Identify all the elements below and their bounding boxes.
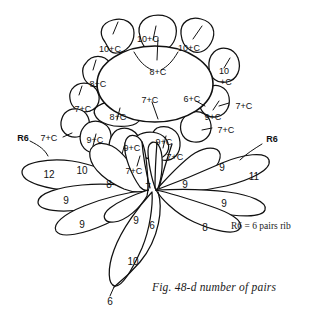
figure-caption: Fig. 48-d number of pairs bbox=[152, 281, 276, 293]
petal-right-lower-label: 7+C bbox=[218, 125, 235, 135]
stem-upper-label: 7 bbox=[145, 182, 151, 193]
leaf-right-5-label: 8 bbox=[202, 222, 208, 233]
leaf-right-1-label: 9 bbox=[219, 162, 225, 173]
leaf-right-3-label: 9 bbox=[221, 198, 227, 209]
petal-bottom-center-left-label: 9+C bbox=[124, 143, 141, 153]
petal-left-lower-label: 8+C bbox=[110, 112, 127, 122]
leaf-left-6-label: 9 bbox=[133, 215, 139, 226]
r6-left-label: R6 bbox=[17, 133, 29, 143]
stem-leaf-label: 10 bbox=[127, 256, 139, 267]
center-left-low-label: 7+C bbox=[142, 95, 159, 105]
leaf-right-2-label: 11 bbox=[249, 171, 260, 182]
petal-bottom-left-label: 9+C bbox=[87, 135, 104, 145]
leaf-left-1-label: 12 bbox=[43, 169, 55, 180]
figure-root: 8+C 7+C 6+C 10+C 10+C 10+C 10+C 8+C 7+C … bbox=[0, 0, 324, 313]
leaf-left-3-label: 9 bbox=[79, 219, 85, 230]
leaf-left-5-label: 8 bbox=[106, 179, 112, 190]
stem-tip-arrow bbox=[110, 287, 114, 296]
stem-tip-label: 6 bbox=[107, 296, 113, 307]
petal-top-center-label: 10+C bbox=[137, 34, 159, 44]
petal-right-outer-label: 7+C bbox=[236, 101, 253, 111]
petal-bottom-center-right-label: 9+C bbox=[156, 137, 173, 147]
flower-diagram: 8+C 7+C 6+C 10+C 10+C 10+C 10+C 8+C 7+C … bbox=[0, 0, 324, 313]
stem-junction-label: 6 bbox=[149, 220, 155, 231]
leaf-right-4-label: 9 bbox=[182, 179, 188, 190]
center-right-low-label: 6+C bbox=[184, 94, 201, 104]
center-top-label: 8+C bbox=[150, 67, 167, 77]
petal-left-upper-label: 8+C bbox=[90, 79, 107, 89]
petal-bottom-right-label: 7+C bbox=[167, 152, 184, 162]
leaf-left-2-label: 9 bbox=[63, 195, 69, 206]
petal-left-mid-label: 7+C bbox=[75, 104, 92, 114]
petal-top-left-label: 10+C bbox=[99, 44, 121, 54]
petal-left-edge-label: 7+C bbox=[41, 133, 58, 143]
leaf-left-4-label: 10 bbox=[76, 165, 88, 176]
petal-right-mid-label: 9+C bbox=[205, 112, 222, 122]
rib-legend-note: R6 = 6 pairs rib bbox=[231, 221, 291, 231]
petal-top-right-label: 10+C bbox=[178, 43, 200, 53]
petal-bottom-center-label: 7+C bbox=[126, 166, 143, 176]
r6-right-label: R6 bbox=[266, 134, 278, 144]
